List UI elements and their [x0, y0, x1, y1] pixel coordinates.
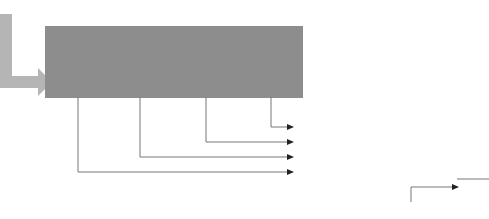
- arrowhead-icon: [452, 184, 459, 190]
- arrowhead-icon: [287, 139, 294, 145]
- connector-6: [206, 97, 287, 142]
- connector-4: [78, 97, 287, 172]
- arrowhead-icon: [287, 169, 294, 175]
- connector-lines: [0, 0, 489, 219]
- connector-f: [140, 97, 287, 157]
- connector-total: [411, 187, 452, 202]
- arrowhead-icon: [287, 154, 294, 160]
- arrowhead-icon: [287, 124, 294, 130]
- connector-a: [271, 97, 287, 127]
